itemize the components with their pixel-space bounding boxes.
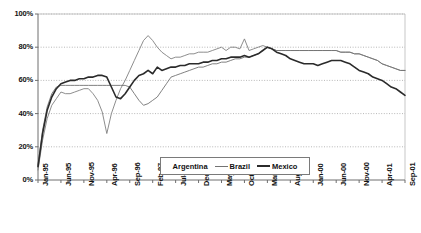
chart-legend: ArgentinaBrazilMexico bbox=[160, 157, 310, 175]
y-axis-tick-label: 60% bbox=[0, 75, 33, 84]
x-axis-tick-label: Nov-95 bbox=[87, 162, 96, 186]
x-axis-tick-label: Jun-00 bbox=[339, 163, 348, 186]
line-chart: 0%20%40%60%80%100% Jan-95Jun-95Nov-95Apr… bbox=[0, 0, 421, 233]
legend-swatch-mexico bbox=[257, 165, 270, 167]
legend-item-mexico: Mexico bbox=[257, 162, 297, 171]
legend-label: Brazil bbox=[230, 162, 250, 171]
x-axis-tick-label: Sep-01 bbox=[408, 163, 417, 186]
y-axis-tick-label: 20% bbox=[0, 142, 33, 151]
series-line-brazil bbox=[38, 47, 405, 165]
legend-item-argentina: Argentina bbox=[173, 162, 208, 171]
y-axis-tick-label: 40% bbox=[0, 109, 33, 118]
series-line-argentina bbox=[38, 36, 405, 170]
y-axis-tick-label: 80% bbox=[0, 42, 33, 51]
x-axis-tick-label: Jan-00 bbox=[316, 163, 325, 186]
legend-label: Mexico bbox=[272, 162, 297, 171]
x-axis-tick-label: Jan-95 bbox=[41, 163, 50, 186]
y-axis-tick-label: 0% bbox=[0, 175, 33, 184]
x-axis-tick-label: Apr-01 bbox=[385, 163, 394, 186]
x-axis-tick-label: Nov-00 bbox=[362, 162, 371, 186]
x-axis-tick-label: Apr-96 bbox=[110, 163, 119, 186]
legend-item-brazil: Brazil bbox=[215, 162, 250, 171]
x-axis-tick-label: Sep-96 bbox=[133, 163, 142, 186]
legend-label: Argentina bbox=[173, 162, 208, 171]
series-line-mexico bbox=[38, 47, 405, 167]
x-axis-tick-label: Jun-95 bbox=[64, 163, 73, 186]
plot-area bbox=[0, 0, 421, 233]
y-axis-tick-label: 100% bbox=[0, 9, 33, 18]
legend-swatch-brazil bbox=[215, 166, 228, 167]
